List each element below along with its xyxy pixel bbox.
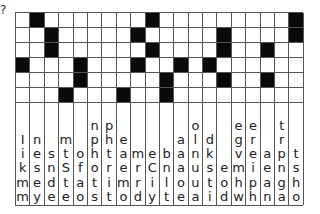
answer-cell[interactable] [189, 88, 203, 103]
answer-cell[interactable] [74, 43, 88, 58]
answer-cell[interactable] [174, 43, 188, 58]
answer-cell[interactable] [261, 28, 275, 43]
answer-cell[interactable] [16, 13, 30, 28]
answer-cell[interactable] [189, 58, 203, 73]
answer-cell[interactable] [88, 73, 102, 88]
answer-cell[interactable] [189, 28, 203, 43]
letter-column: Iikmm [16, 103, 30, 205]
answer-cell[interactable] [102, 88, 116, 103]
answer-cell[interactable] [30, 73, 44, 88]
answer-cell[interactable] [289, 73, 303, 88]
answer-cell[interactable] [232, 43, 246, 58]
clue-letter: y [33, 190, 41, 204]
answer-cell[interactable] [16, 28, 30, 43]
answer-cell[interactable] [203, 13, 217, 28]
answer-cell[interactable] [160, 58, 174, 73]
answer-cell[interactable] [117, 13, 131, 28]
answer-cell[interactable] [160, 43, 174, 58]
answer-cell[interactable] [275, 13, 289, 28]
answer-cell[interactable] [217, 88, 231, 103]
answer-cell[interactable] [203, 73, 217, 88]
answer-cell[interactable] [88, 88, 102, 103]
answer-cell[interactable] [203, 88, 217, 103]
answer-cell[interactable] [232, 13, 246, 28]
answer-cell[interactable] [232, 88, 246, 103]
answer-cell[interactable] [30, 58, 44, 73]
answer-cell[interactable] [88, 43, 102, 58]
answer-cell[interactable] [174, 28, 188, 43]
answer-cell[interactable] [261, 88, 275, 103]
answer-cell[interactable] [289, 88, 303, 103]
answer-cell[interactable] [203, 43, 217, 58]
answer-cell[interactable] [275, 58, 289, 73]
answer-cell[interactable] [30, 28, 44, 43]
answer-cell[interactable] [59, 43, 73, 58]
answer-cell[interactable] [174, 88, 188, 103]
answer-cell[interactable] [131, 73, 145, 88]
answer-cell[interactable] [146, 73, 160, 88]
answer-cell[interactable] [102, 73, 116, 88]
answer-cell[interactable] [74, 28, 88, 43]
answer-cell[interactable] [189, 13, 203, 28]
answer-cell[interactable] [102, 43, 116, 58]
answer-cell[interactable] [246, 88, 260, 103]
answer-cell[interactable] [88, 58, 102, 73]
clue-letter: n [91, 119, 99, 133]
answer-cell[interactable] [59, 13, 73, 28]
answer-cell[interactable] [59, 58, 73, 73]
answer-cell[interactable] [246, 58, 260, 73]
answer-cell[interactable] [16, 43, 30, 58]
answer-cell[interactable] [117, 43, 131, 58]
answer-cell[interactable] [203, 28, 217, 43]
answer-cell[interactable] [45, 13, 59, 28]
answer-cell[interactable] [232, 58, 246, 73]
answer-cell[interactable] [30, 88, 44, 103]
answer-cell[interactable] [160, 28, 174, 43]
answer-cell[interactable] [146, 28, 160, 43]
answer-cell[interactable] [217, 58, 231, 73]
answer-cell[interactable] [275, 28, 289, 43]
answer-cell[interactable] [261, 13, 275, 28]
answer-cell[interactable] [246, 28, 260, 43]
answer-cell[interactable] [174, 73, 188, 88]
answer-cell[interactable] [74, 13, 88, 28]
answer-cell[interactable] [189, 73, 203, 88]
answer-cell[interactable] [117, 73, 131, 88]
answer-cell[interactable] [232, 28, 246, 43]
answer-cell[interactable] [88, 13, 102, 28]
answer-cell[interactable] [275, 88, 289, 103]
answer-cell[interactable] [275, 43, 289, 58]
answer-cell[interactable] [160, 13, 174, 28]
answer-cell[interactable] [246, 43, 260, 58]
answer-cell[interactable] [232, 73, 246, 88]
answer-cell[interactable] [59, 73, 73, 88]
answer-cell[interactable] [131, 13, 145, 28]
answer-cell[interactable] [117, 58, 131, 73]
answer-cell[interactable] [146, 58, 160, 73]
answer-cell[interactable] [261, 58, 275, 73]
answer-cell[interactable] [30, 43, 44, 58]
answer-cell[interactable] [217, 13, 231, 28]
answer-cell[interactable] [102, 58, 116, 73]
answer-cell[interactable] [45, 58, 59, 73]
answer-cell[interactable] [289, 43, 303, 58]
answer-cell[interactable] [246, 73, 260, 88]
answer-cell[interactable] [102, 13, 116, 28]
answer-cell[interactable] [189, 43, 203, 58]
answer-cell[interactable] [131, 88, 145, 103]
answer-cell[interactable] [174, 13, 188, 28]
answer-cell[interactable] [117, 28, 131, 43]
answer-cell[interactable] [45, 73, 59, 88]
answer-cell[interactable] [59, 28, 73, 43]
answer-cell[interactable] [16, 73, 30, 88]
answer-cell[interactable] [289, 58, 303, 73]
answer-cell[interactable] [146, 88, 160, 103]
answer-cell[interactable] [102, 28, 116, 43]
answer-cell[interactable] [246, 13, 260, 28]
answer-cell[interactable] [45, 88, 59, 103]
answer-cell[interactable] [131, 43, 145, 58]
answer-cell[interactable] [74, 88, 88, 103]
answer-cell[interactable] [275, 73, 289, 88]
answer-cell[interactable] [88, 28, 102, 43]
answer-cell[interactable] [16, 88, 30, 103]
